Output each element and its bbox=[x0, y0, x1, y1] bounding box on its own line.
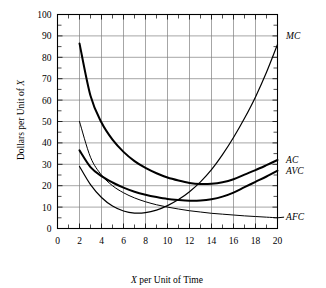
x-tick-label: 12 bbox=[185, 236, 195, 246]
curve-ac bbox=[80, 43, 278, 184]
y-tick-label: 20 bbox=[42, 181, 52, 191]
y-tick-label: 90 bbox=[42, 31, 52, 41]
curve-label-afc: AFC bbox=[285, 212, 305, 222]
x-tick-label: 10 bbox=[163, 236, 173, 246]
afc-leader-line bbox=[278, 217, 285, 218]
curve-labels-group: ACAVCAFCMC bbox=[278, 31, 305, 222]
curve-avc bbox=[80, 150, 278, 200]
x-axis-title: X per Unit of Time bbox=[130, 275, 203, 285]
y-tick-label: 80 bbox=[42, 53, 52, 63]
x-tick-label: 4 bbox=[99, 236, 104, 246]
y-axis-title-main: Dollars per Unit of bbox=[16, 86, 26, 160]
x-tick-label: 16 bbox=[229, 236, 239, 246]
curve-label-ac: AC bbox=[285, 155, 299, 165]
x-tick-label: 2 bbox=[77, 236, 82, 246]
y-axis-title: Dollars per Unit of X bbox=[16, 79, 26, 160]
y-tick-label: 40 bbox=[42, 138, 52, 148]
gridlines-group bbox=[58, 15, 278, 229]
x-tick-label: 20 bbox=[273, 236, 283, 246]
cost-curves-figure: 02468101214161820 0102030405060708090100… bbox=[0, 0, 326, 288]
x-tick-label: 8 bbox=[143, 236, 148, 246]
curves-group bbox=[80, 43, 278, 217]
y-tick-label: 50 bbox=[42, 117, 52, 127]
x-tick-label: 14 bbox=[207, 236, 217, 246]
x-tick-label: 0 bbox=[55, 236, 60, 246]
y-tick-label: 70 bbox=[42, 74, 52, 84]
x-tick-label: 18 bbox=[251, 236, 261, 246]
y-tick-label: 10 bbox=[42, 203, 52, 213]
y-tick-label: 0 bbox=[47, 224, 52, 234]
curve-label-mc: MC bbox=[285, 31, 301, 41]
x-tick-labels-group: 02468101214161820 bbox=[55, 236, 282, 246]
y-tick-labels-group: 0102030405060708090100 bbox=[37, 10, 52, 234]
y-tick-label: 30 bbox=[42, 160, 52, 170]
curve-mc bbox=[80, 44, 278, 213]
y-tick-label: 60 bbox=[42, 96, 52, 106]
chart-canvas: 02468101214161820 0102030405060708090100… bbox=[0, 0, 326, 288]
y-axis-title-symbol: X bbox=[16, 79, 26, 87]
x-tick-label: 6 bbox=[121, 236, 126, 246]
x-axis-title-rest: per Unit of Time bbox=[137, 275, 203, 285]
y-tick-label: 100 bbox=[37, 10, 52, 20]
curve-label-avc: AVC bbox=[285, 166, 304, 176]
